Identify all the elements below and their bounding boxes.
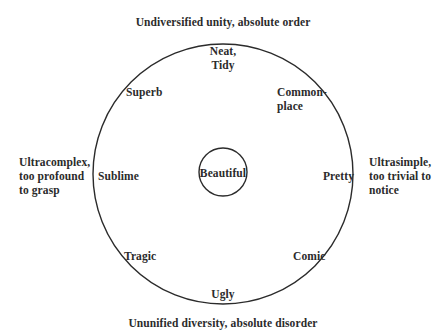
label-left-extreme: Ultracomplex, too profound to grasp bbox=[19, 155, 90, 197]
right-extreme-line-3: notice bbox=[369, 183, 431, 197]
label-neat-tidy: Neat, Tidy bbox=[193, 44, 253, 72]
label-neat-line-1: Neat, bbox=[193, 44, 253, 58]
label-commonplace: Common- place bbox=[277, 85, 327, 113]
right-extreme-line-2: too trivial to bbox=[369, 169, 431, 183]
right-extreme-line-1: Ultrasimple, bbox=[369, 155, 431, 169]
label-pretty: Pretty bbox=[323, 169, 354, 183]
label-sublime: Sublime bbox=[98, 169, 139, 183]
left-extreme-line-1: Ultracomplex, bbox=[19, 155, 90, 169]
bottom-caption: Ununified diversity, absolute disorder bbox=[0, 316, 446, 330]
label-ugly: Ugly bbox=[193, 287, 253, 301]
label-neat-line-2: Tidy bbox=[193, 58, 253, 72]
label-superb: Superb bbox=[126, 85, 162, 99]
left-extreme-line-2: too profound bbox=[19, 169, 90, 183]
label-beautiful: Beautiful bbox=[199, 166, 247, 180]
label-tragic: Tragic bbox=[124, 249, 156, 263]
left-extreme-line-3: to grasp bbox=[19, 183, 90, 197]
label-right-extreme: Ultrasimple, too trivial to notice bbox=[369, 155, 431, 197]
top-caption: Undiversified unity, absolute order bbox=[0, 15, 446, 29]
label-commonplace-line-1: Common- bbox=[277, 85, 327, 99]
label-comic: Comic bbox=[293, 249, 325, 263]
label-commonplace-line-2: place bbox=[277, 99, 327, 113]
